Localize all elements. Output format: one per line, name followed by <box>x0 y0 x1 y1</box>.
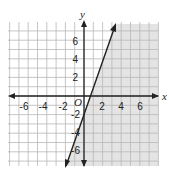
y-tick: -4 <box>71 127 80 138</box>
origin-label: O <box>74 96 82 108</box>
inequality-graph: x y O -6 -4 -2 2 4 6 6 4 2 -2 -4 -6 <box>0 0 169 172</box>
y-axis-arrow-up <box>81 20 87 27</box>
x-axis-label: x <box>161 90 167 102</box>
x-axis-arrow-left <box>8 93 15 99</box>
y-tick: 2 <box>72 72 78 83</box>
x-tick: 2 <box>99 101 105 112</box>
x-tick: -4 <box>39 101 48 112</box>
x-tick: -2 <box>59 101 68 112</box>
y-tick: 6 <box>72 36 78 47</box>
y-tick: -6 <box>71 145 80 156</box>
x-tick: 4 <box>118 101 124 112</box>
x-tick: 6 <box>137 101 143 112</box>
y-axis-label: y <box>79 8 85 20</box>
y-tick: -2 <box>71 109 80 120</box>
y-tick: 4 <box>72 54 78 65</box>
x-tick: -6 <box>20 101 29 112</box>
